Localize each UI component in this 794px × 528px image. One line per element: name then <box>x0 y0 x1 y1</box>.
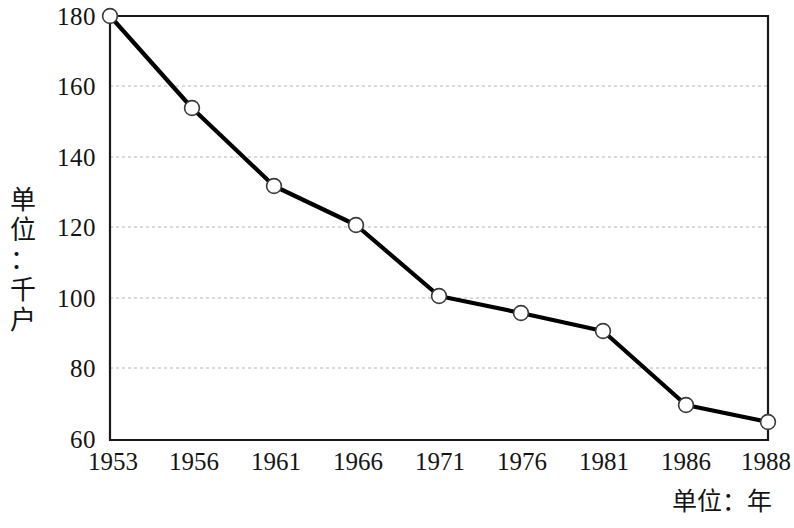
data-line <box>110 16 768 422</box>
data-point-1988 <box>761 415 776 430</box>
x-tick-1953: 1953 <box>88 447 138 477</box>
data-point-1956 <box>185 101 200 116</box>
x-tick-1981: 1981 <box>579 447 629 477</box>
x-axis-tick-labels: 1953 1956 1961 1966 1971 1976 1981 1986 … <box>0 447 794 481</box>
x-tick-1976: 1976 <box>497 447 547 477</box>
line-chart: 单 位 ： 千 户 180 160 140 120 100 80 60 <box>0 0 794 528</box>
data-point-1981 <box>596 324 611 339</box>
data-point-1971 <box>432 289 447 304</box>
x-tick-1966: 1966 <box>333 447 383 477</box>
axis-frame <box>110 16 768 440</box>
x-tick-1956: 1956 <box>169 447 219 477</box>
data-point-1966 <box>349 218 364 233</box>
x-axis-unit-label: 单位：年 <box>672 487 772 517</box>
data-point-markers <box>103 9 776 430</box>
x-tick-1986: 1986 <box>661 447 711 477</box>
gridlines <box>110 86 768 368</box>
data-point-1986 <box>679 398 694 413</box>
data-point-1953 <box>103 9 118 24</box>
x-tick-1961: 1961 <box>251 447 301 477</box>
data-point-1976 <box>514 306 529 321</box>
plot-border <box>110 16 768 440</box>
data-point-1961 <box>267 179 282 194</box>
x-tick-1988: 1988 <box>741 447 791 477</box>
x-tick-1971: 1971 <box>415 447 465 477</box>
